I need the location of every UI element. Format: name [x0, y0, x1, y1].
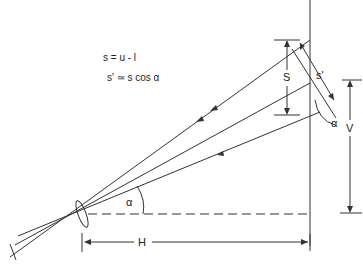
- equation-2: s' ≃ s cos α: [107, 72, 159, 83]
- label-s: S: [283, 72, 290, 83]
- label-alpha-left: α: [126, 197, 132, 208]
- equation-1: s = u - l: [103, 52, 136, 63]
- lens: [73, 199, 90, 228]
- ray-middle: [15, 83, 310, 245]
- optics-diagram: [0, 0, 363, 268]
- ray-bottom: [18, 112, 320, 236]
- label-h: H: [138, 237, 146, 248]
- ray-top: [10, 40, 310, 257]
- label-v: V: [346, 123, 353, 134]
- label-alpha-right: α: [331, 118, 337, 129]
- label-s-prime: s': [316, 70, 324, 81]
- tilted-plane: [292, 49, 336, 118]
